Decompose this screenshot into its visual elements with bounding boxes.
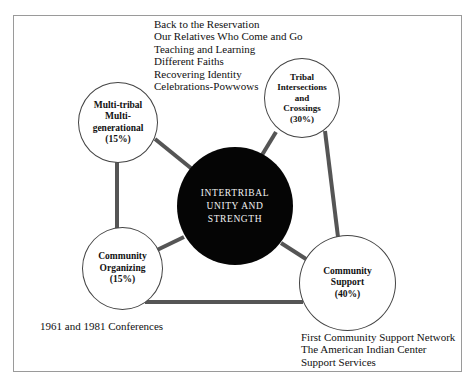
support-item: Support Services: [301, 356, 455, 368]
theme-item: Teaching and Learning: [154, 43, 303, 55]
conferences-note: 1961 and 1981 Conferences: [40, 320, 163, 332]
node-label: Tribal Intersections and Crossings (30%): [277, 72, 327, 125]
node-community-organizing: Community Organizing (15%): [82, 227, 163, 310]
connector-tribal-support: [325, 131, 338, 237]
node-label: Community Organizing (15%): [98, 251, 147, 286]
connector-multitribal-center: [155, 139, 192, 169]
node-intertribal-unity: INTERTRIBAL UNITY AND STRENGTH: [177, 147, 293, 265]
connector-center-support: [281, 243, 306, 259]
conferences-text: 1961 and 1981 Conferences: [40, 320, 163, 332]
connector-center-organizing: [157, 237, 184, 250]
node-multi-tribal: Multi-tribal Multi- generational (15%): [78, 82, 158, 163]
center-label: INTERTRIBAL UNITY AND STRENGTH: [201, 187, 269, 226]
theme-item: Back to the Reservation: [154, 18, 303, 30]
node-community-support: Community Support (40%): [299, 235, 396, 331]
node-tribal-intersections: Tribal Intersections and Crossings (30%): [264, 58, 340, 138]
node-label: Community Support (40%): [323, 266, 372, 301]
connector-tribal-center: [262, 132, 276, 155]
node-label: Multi-tribal Multi- generational (15%): [93, 100, 144, 146]
support-item: The American Indian Center: [301, 343, 455, 355]
support-services-list: First Community Support Network The Amer…: [301, 331, 455, 368]
theme-item: Our Relatives Who Come and Go: [154, 30, 303, 42]
support-item: First Community Support Network: [301, 331, 455, 343]
